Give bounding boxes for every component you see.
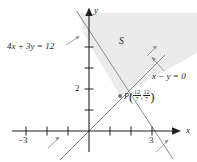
graph-canvas <box>0 0 197 162</box>
intersection-point-p <box>118 94 122 98</box>
region-label-s: S <box>119 37 124 47</box>
x-axis-label: x <box>186 126 190 135</box>
y-axis-arrowhead <box>85 8 92 17</box>
graph-figure: x y −3 3 2 S 4x + 3y = 12 x − y = 0 P(12… <box>0 0 197 162</box>
leader-arrowhead-lower-left <box>55 137 59 141</box>
x-tick-label-3: 3 <box>149 136 154 145</box>
point-paren-close: ) <box>150 89 154 104</box>
line-label-x-minus-y-0: x − y = 0 <box>152 72 186 81</box>
line-label-4x-3y-12: 4x + 3y = 12 <box>7 42 54 51</box>
shaded-region-s <box>80 13 197 96</box>
leader-arrowhead-4x3y12 <box>75 36 79 39</box>
leader-arrowhead-lower-right <box>164 140 168 144</box>
point-x-fraction: 127 <box>133 89 140 103</box>
y-axis-label: y <box>94 6 98 15</box>
point-label-p: P(127,127) <box>124 89 155 103</box>
x-axis-arrowhead <box>172 127 181 134</box>
y-tick-label-2: 2 <box>75 84 80 93</box>
x-tick-label-minus3: −3 <box>18 136 28 145</box>
